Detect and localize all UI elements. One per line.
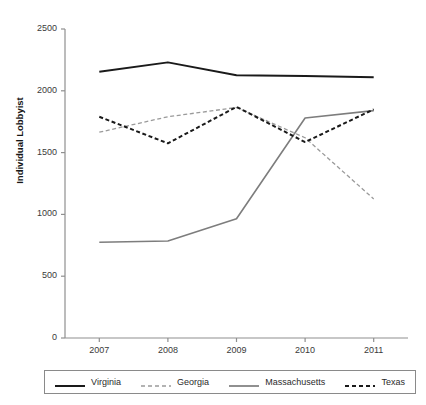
y-axis-title: Individual Lobbyist [14, 86, 25, 196]
legend-item-virginia: Virginia [55, 377, 121, 387]
legend-label-texas: Texas [381, 377, 405, 387]
y-tick-label: 500 [17, 270, 57, 280]
series-line-texas [99, 107, 373, 143]
data-series-group [99, 62, 373, 242]
legend-swatch-georgia [141, 377, 171, 387]
legend-item-massachusetts: Massachusetts [229, 377, 325, 387]
line-chart: 05001000150020002500 2007200820092010201… [0, 0, 426, 405]
x-tick-label: 2007 [79, 345, 119, 355]
legend-item-georgia: Georgia [141, 377, 209, 387]
legend-swatch-massachusetts [229, 377, 259, 387]
legend-label-georgia: Georgia [177, 377, 209, 387]
legend-swatch-virginia [55, 377, 85, 387]
legend-label-virginia: Virginia [91, 377, 121, 387]
y-tick-label: 1000 [17, 208, 57, 218]
legend-item-texas: Texas [345, 377, 405, 387]
x-tick-label: 2010 [285, 345, 325, 355]
legend-swatch-texas [345, 377, 375, 387]
x-tick-label: 2008 [148, 345, 188, 355]
series-line-virginia [99, 62, 373, 77]
y-tick-label: 2500 [17, 23, 57, 33]
legend-label-massachusetts: Massachusetts [265, 377, 325, 387]
series-line-massachusetts [99, 111, 373, 243]
series-line-georgia [99, 107, 373, 198]
x-tick-label: 2011 [354, 345, 394, 355]
y-tick-label: 0 [17, 332, 57, 342]
x-tick-label: 2009 [217, 345, 257, 355]
chart-legend: Virginia Georgia Massachusetts Texas [44, 370, 416, 394]
